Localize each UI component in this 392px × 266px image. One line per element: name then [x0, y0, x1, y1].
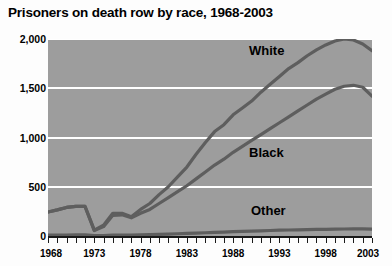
plot-area — [48, 39, 372, 236]
x-tick — [224, 238, 225, 243]
x-tick — [67, 238, 68, 243]
x-tick — [57, 238, 58, 243]
y-tick-label: 500 — [2, 181, 46, 193]
x-tick — [168, 238, 169, 243]
x-tick — [178, 238, 179, 243]
y-tick-label: 1,000 — [2, 132, 46, 144]
x-tick-label: 1983 — [176, 248, 198, 259]
x-tick-label: 1973 — [83, 248, 105, 259]
x-tick-label: 1978 — [129, 248, 151, 259]
x-tick — [326, 238, 327, 243]
x-tick-label: 1998 — [315, 248, 337, 259]
x-tick — [242, 238, 243, 243]
x-tick — [363, 238, 364, 243]
x-tick — [141, 238, 142, 243]
x-tick — [196, 238, 197, 243]
x-tick-label: 2003 — [357, 248, 379, 259]
x-tick — [372, 238, 373, 243]
x-tick — [233, 238, 234, 243]
x-tick — [187, 238, 188, 243]
series-lines — [48, 39, 372, 236]
series-label-white: White — [249, 43, 284, 58]
y-axis: 05001,0001,5002,000 — [0, 0, 46, 266]
x-tick-label: 1968 — [40, 248, 62, 259]
x-tick — [150, 238, 151, 243]
x-tick — [131, 238, 132, 243]
x-tick — [344, 238, 345, 243]
x-tick — [205, 238, 206, 243]
x-tick — [298, 238, 299, 243]
x-tick — [76, 238, 77, 243]
y-tick-label: 2,000 — [2, 33, 46, 45]
x-tick — [289, 238, 290, 243]
y-tick-label: 1,500 — [2, 82, 46, 94]
x-tick — [94, 238, 95, 243]
series-label-other: Other — [251, 203, 286, 218]
x-axis-baseline — [48, 236, 372, 238]
x-tick — [215, 238, 216, 243]
x-tick — [335, 238, 336, 243]
series-label-black: Black — [249, 145, 284, 160]
series-line-white — [48, 39, 372, 230]
x-tick — [122, 238, 123, 243]
x-tick — [279, 238, 280, 243]
x-tick — [353, 238, 354, 243]
x-tick — [261, 238, 262, 243]
chart-title: Prisoners on death row by race, 1968-200… — [8, 5, 273, 20]
x-tick — [307, 238, 308, 243]
x-tick — [48, 238, 49, 243]
x-tick — [85, 238, 86, 243]
x-tick-label: 1993 — [268, 248, 290, 259]
chart-figure: Prisoners on death row by race, 1968-200… — [0, 0, 392, 266]
x-tick — [252, 238, 253, 243]
x-tick — [316, 238, 317, 243]
x-axis: 19681973197819831988199319982003 — [48, 236, 372, 266]
x-tick — [270, 238, 271, 243]
y-tick-label: 0 — [2, 230, 46, 242]
series-line-black — [48, 85, 372, 230]
x-tick — [113, 238, 114, 243]
x-tick — [104, 238, 105, 243]
x-tick — [159, 238, 160, 243]
x-tick-label: 1988 — [222, 248, 244, 259]
